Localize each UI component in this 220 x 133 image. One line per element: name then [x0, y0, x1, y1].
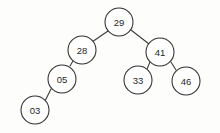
tree-node: 03 [21, 96, 49, 124]
node-label: 29 [114, 17, 124, 28]
tree-edge [70, 61, 73, 66]
binary-search-tree-figure: 29284105334603 [0, 0, 220, 133]
tree-node: 33 [124, 66, 152, 94]
node-label: 03 [30, 105, 40, 116]
node-label: 05 [57, 74, 67, 85]
node-label: 41 [155, 47, 165, 58]
node-label: 28 [77, 45, 87, 56]
tree-node: 41 [146, 38, 174, 66]
tree-canvas: 29284105334603 [0, 0, 220, 133]
node-label: 33 [133, 75, 143, 86]
node-label: 46 [181, 76, 191, 87]
tree-node: 28 [68, 36, 96, 64]
tree-edge [147, 62, 150, 69]
tree-node: 46 [172, 67, 200, 95]
tree-edge [92, 31, 108, 42]
tree-edge [45, 89, 51, 101]
tree-edge [171, 62, 176, 70]
tree-node: 29 [105, 8, 133, 36]
tree-node: 05 [48, 65, 76, 93]
tree-edge [131, 30, 149, 44]
